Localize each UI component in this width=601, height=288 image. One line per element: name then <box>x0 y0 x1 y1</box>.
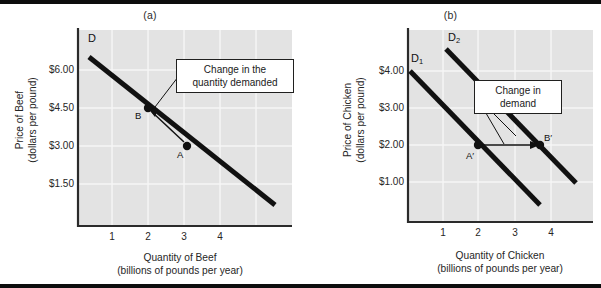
panel-b-xtick-2: 3 <box>504 227 526 238</box>
point-marker-a <box>183 142 191 150</box>
panel-b-x-axis-title-line1: Quantity of Chicken <box>456 250 545 261</box>
panel-b-y-axis-title-line1: Price of Chicken <box>342 83 353 157</box>
panel-b-curve-label-d1-text: D <box>411 52 419 64</box>
panel-b-point-label-a-prime: A′ <box>466 150 474 161</box>
panel-b-xtick-3: 4 <box>540 227 562 238</box>
panel-a-xtick-3: 4 <box>209 231 231 242</box>
panel-a-callout-line2: quantity demanded <box>192 77 277 88</box>
panel-a-curve-label-d: D <box>88 32 96 44</box>
panel-b-curve-label-d1: D1 <box>411 52 423 64</box>
panel-b-curve-label-d2: D2 <box>448 31 460 43</box>
panel-b: (b) <box>300 0 601 288</box>
panel-b-callout: Change in demand <box>474 80 562 114</box>
panel-b-x-axis-title-line2: (billions of pounds per year) <box>437 263 563 274</box>
panel-a-xtick-2: 3 <box>173 231 195 242</box>
point-marker-a-prime <box>474 141 482 149</box>
panel-b-y-axis-title-line2: (dollars per pound) <box>355 77 366 163</box>
panel-a-x-axis-title: Quantity of Beef (billions of pounds per… <box>60 252 300 277</box>
panel-b-xtick-1: 2 <box>467 227 489 238</box>
panel-a-point-label-a: A <box>177 149 183 160</box>
panel-b-callout-line2: demand <box>500 98 536 109</box>
panel-b-curve-label-d1-sub: 1 <box>419 57 423 66</box>
panel-b-point-label-b-prime: B′ <box>544 132 552 143</box>
panel-a-point-label-b: B <box>135 110 141 121</box>
panel-a-y-axis-title-line1: Price of Beef <box>14 91 25 149</box>
panel-b-curve-label-d2-text: D <box>448 31 456 43</box>
panel-a-xtick-1: 2 <box>137 231 159 242</box>
panel-a-y-axis-title: Price of Beef (dollars per pound) <box>14 55 39 185</box>
panel-b-callout-line1: Change in <box>495 85 541 96</box>
panel-a-x-axis-title-line2: (billions of pounds per year) <box>117 265 243 276</box>
panel-b-curve-label-d2-sub: 2 <box>456 36 460 45</box>
point-marker-b-prime <box>536 141 544 149</box>
panel-a: (a) <box>0 0 300 288</box>
plot-area-background <box>408 30 593 222</box>
point-marker-b <box>144 104 152 112</box>
panel-b-x-axis-title: Quantity of Chicken (billions of pounds … <box>380 250 601 275</box>
panel-a-callout: Change in the quantity demanded <box>176 59 294 93</box>
panel-a-x-axis-title-line1: Quantity of Beef <box>143 252 216 263</box>
panel-a-y-axis-title-line2: (dollars per pound) <box>27 77 38 163</box>
panel-a-callout-line1: Change in the <box>204 64 266 75</box>
panel-a-xtick-0: 1 <box>101 231 123 242</box>
panel-b-xtick-0: 1 <box>432 227 454 238</box>
demand-curve-figure: (a) <box>0 0 601 288</box>
panel-b-y-axis-title: Price of Chicken (dollars per pound) <box>342 50 367 190</box>
